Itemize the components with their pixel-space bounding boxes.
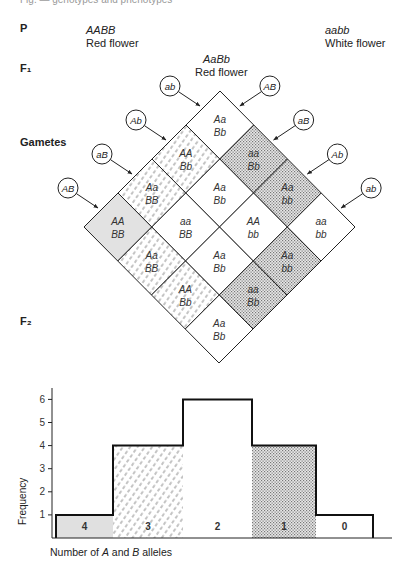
svg-text:Ab: Ab <box>129 115 142 126</box>
svg-text:4: 4 <box>82 521 88 532</box>
svg-text:aB: aB <box>96 149 108 160</box>
gamete-left-3: AB <box>58 178 98 208</box>
histogram-bar: 3 <box>113 446 183 538</box>
svg-text:Aa: Aa <box>212 318 226 329</box>
svg-text:AA: AA <box>178 284 193 295</box>
svg-text:bb: bb <box>316 229 328 240</box>
histogram-bar: 2 <box>183 399 252 538</box>
svg-text:Bb: Bb <box>180 161 193 172</box>
punnett-square: AaBbaaBbAabbaabbAABbAaBbAAbbAabbAaBBaaBB… <box>0 0 409 380</box>
svg-text:Bb: Bb <box>214 127 227 138</box>
svg-text:bb: bb <box>282 195 294 206</box>
svg-text:bb: bb <box>282 263 294 274</box>
y-tick-label: 3 <box>39 463 45 474</box>
gamete-left-2: aB <box>92 144 132 174</box>
svg-text:Aa: Aa <box>280 182 294 193</box>
gamete-right-1: aB <box>274 110 314 140</box>
svg-text:BB: BB <box>111 229 125 240</box>
svg-text:BB: BB <box>179 229 193 240</box>
svg-text:AB: AB <box>263 81 277 92</box>
svg-text:BB: BB <box>145 195 159 206</box>
y-tick-label: 5 <box>39 417 45 428</box>
gamete-right-2: Ab <box>307 144 347 174</box>
svg-text:aa: aa <box>248 148 260 159</box>
svg-text:Aa: Aa <box>212 250 226 261</box>
svg-text:Bb: Bb <box>179 297 192 308</box>
svg-text:Ab: Ab <box>331 149 344 160</box>
gamete-right-0: AB <box>240 76 280 106</box>
svg-text:aa: aa <box>316 216 328 227</box>
svg-text:aa: aa <box>248 284 260 295</box>
svg-text:bb: bb <box>248 229 260 240</box>
svg-text:AA: AA <box>246 216 261 227</box>
svg-text:1: 1 <box>281 521 287 532</box>
svg-text:Aa: Aa <box>145 182 159 193</box>
svg-text:Bb: Bb <box>247 297 260 308</box>
gamete-left-0: ab <box>160 76 200 106</box>
svg-text:0: 0 <box>342 521 348 532</box>
svg-text:Aa: Aa <box>213 182 227 193</box>
svg-text:aa: aa <box>180 216 192 227</box>
y-tick-label: 1 <box>39 509 45 520</box>
svg-text:AA: AA <box>110 216 125 227</box>
svg-text:Aa: Aa <box>145 250 159 261</box>
histogram-bar: 4 <box>56 515 113 538</box>
svg-text:BB: BB <box>145 263 159 274</box>
y-axis-label: Frequency <box>16 478 29 525</box>
svg-text:2: 2 <box>215 521 221 532</box>
svg-text:aB: aB <box>298 115 310 126</box>
svg-text:Bb: Bb <box>248 161 261 172</box>
svg-text:Aa: Aa <box>280 250 294 261</box>
histogram-bar: 0 <box>316 515 373 538</box>
gamete-left-1: Ab <box>126 110 166 140</box>
svg-text:ab: ab <box>366 183 377 194</box>
y-tick-label: 4 <box>39 440 45 451</box>
y-tick-label: 6 <box>39 394 45 405</box>
svg-text:ab: ab <box>165 81 176 92</box>
y-tick-label: 2 <box>39 486 45 497</box>
gamete-right-3: ab <box>341 178 381 208</box>
svg-text:Bb: Bb <box>213 331 226 342</box>
histogram-bar: 1 <box>252 446 316 538</box>
svg-text:AA: AA <box>178 148 193 159</box>
svg-text:Bb: Bb <box>214 195 227 206</box>
svg-text:Bb: Bb <box>213 263 226 274</box>
svg-text:AB: AB <box>61 183 75 194</box>
svg-text:3: 3 <box>145 521 151 532</box>
svg-text:Aa: Aa <box>213 114 227 125</box>
x-axis-label: Number of A and B alleles <box>50 546 172 559</box>
